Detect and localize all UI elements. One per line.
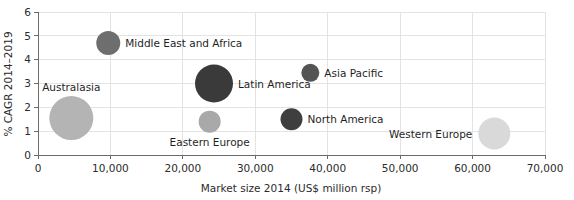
x-tick-label: 70,000: [527, 162, 564, 174]
bubble-north-america[interactable]: [281, 108, 303, 130]
bubble-label-north-america: North America: [308, 113, 384, 125]
bubble-label-middle-east-and-africa: Middle East and Africa: [125, 37, 242, 49]
x-tick-label: 10,000: [92, 162, 129, 174]
x-axis: 010,00020,00030,00040,00050,00060,00070,…: [35, 155, 564, 174]
y-axis-title: % CAGR 2014–2019: [2, 31, 14, 136]
y-tick-label: 6: [24, 6, 31, 18]
bubble-label-australasia: Australasia: [42, 81, 100, 93]
x-axis-title: Market size 2014 (US$ million rsp): [201, 182, 382, 194]
y-tick-label: 2: [24, 101, 31, 113]
bubble-label-latin-america: Latin America: [238, 78, 311, 90]
y-tick-label: 3: [24, 77, 31, 89]
x-tick-label: 0: [35, 162, 42, 174]
bubble-middle-east-and-africa[interactable]: [96, 31, 120, 55]
y-tick-label: 4: [24, 53, 31, 65]
x-tick-label: 50,000: [382, 162, 419, 174]
bubble-western-europe[interactable]: [478, 118, 510, 150]
bubble-latin-america[interactable]: [195, 65, 233, 103]
x-tick-label: 40,000: [309, 162, 346, 174]
bubble-label-western-europe: Western Europe: [389, 128, 472, 140]
bubble-label-asia-pacific: Asia Pacific: [324, 67, 383, 79]
x-tick-label: 20,000: [164, 162, 201, 174]
bubble-chart: 0123456 010,00020,00030,00040,00050,0006…: [0, 0, 574, 200]
bubble-label-eastern-europe: Eastern Europe: [170, 136, 250, 148]
bubble-eastern-europe[interactable]: [199, 111, 221, 133]
y-axis: 0123456: [24, 6, 38, 161]
x-tick-label: 30,000: [237, 162, 274, 174]
y-tick-label: 0: [24, 149, 31, 161]
x-tick-label: 60,000: [454, 162, 491, 174]
y-tick-label: 1: [24, 125, 31, 137]
y-tick-label: 5: [24, 30, 31, 42]
bubble-australasia[interactable]: [49, 96, 93, 140]
chart-canvas: 0123456 010,00020,00030,00040,00050,0006…: [0, 0, 574, 200]
